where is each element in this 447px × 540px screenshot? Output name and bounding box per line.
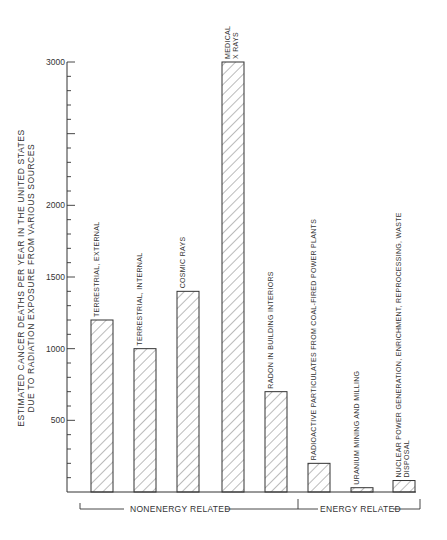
y-axis-title-line: ESTIMATED CANCER DEATHS PER YEAR IN THE … — [16, 129, 26, 427]
bar-chart: 5001000150020003000 ESTIMATED CANCER DEA… — [0, 0, 447, 540]
bar-label: URANIUM MINING AND MILLING — [353, 371, 360, 485]
y-tick-label: 1000 — [46, 344, 65, 354]
y-axis-title: ESTIMATED CANCER DEATHS PER YEAR IN THE … — [16, 129, 36, 427]
bar-label: DISPOSAL — [403, 440, 410, 477]
bar-label: COSMIC RAYS — [179, 237, 186, 289]
y-tick-label: 2000 — [46, 200, 65, 210]
bar — [177, 291, 199, 492]
bar-label: NUCLEAR POWER GENERATION, ENRICHMENT, RE… — [395, 212, 402, 477]
bar — [222, 62, 244, 492]
bar — [351, 488, 373, 492]
bar-label: RADON IN BUILDING INTERIORS — [267, 271, 274, 388]
bar-label: RADIOACTIVE PARTICULATES FROM COAL-FIRED… — [310, 219, 317, 461]
bar-label: X RAYS — [232, 32, 239, 59]
y-tick-label: 3000 — [46, 57, 65, 67]
y-tick-label: 1500 — [46, 272, 65, 282]
bar-label: TERRESTRIAL, EXTERNAL — [93, 222, 100, 317]
bar — [308, 463, 330, 492]
bar — [91, 320, 113, 492]
bar-label: MEDICAL — [224, 26, 231, 59]
y-axis-title-line: DUE TO RADIATION EXPOSURE FROM VARIOUS S… — [26, 144, 36, 413]
bar-label: TERRESTRIAL, INTERNAL — [136, 253, 143, 346]
bar — [393, 481, 415, 492]
group-label-energy: ENERGY RELATED — [320, 504, 401, 514]
bar — [134, 349, 156, 492]
group-brackets: NONENERGY RELATEDENERGY RELATED — [80, 499, 420, 514]
bar — [265, 392, 287, 492]
y-tick-label: 500 — [51, 415, 65, 425]
group-label-nonenergy: NONENERGY RELATED — [130, 504, 231, 514]
